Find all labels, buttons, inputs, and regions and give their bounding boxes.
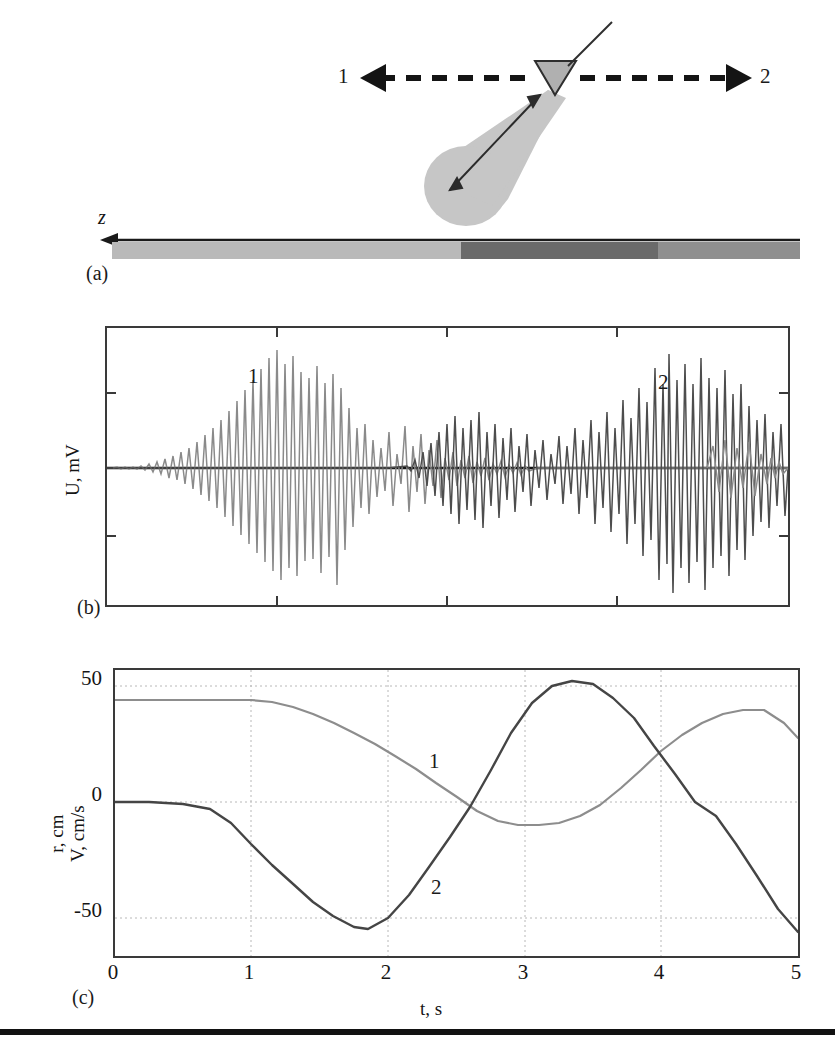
ultrasound-beam-cone [424, 90, 566, 226]
chart-label-1: 1 [429, 749, 440, 774]
panel-b-ylabel-text: U, mV [62, 444, 83, 496]
figure-root: z 1 2 (a) U, mV [0, 0, 835, 1056]
direction-label-1: 1 [338, 64, 349, 89]
panel-c-ylabel-line2: V, cm/s [67, 805, 88, 862]
panel-b-tag: (b) [77, 596, 100, 619]
transducer-cable [568, 22, 612, 66]
page-bottom-rule [0, 1029, 835, 1035]
bar-segment-light [112, 242, 461, 259]
xtick-label-1: 1 [229, 960, 269, 985]
panel-a-drawing [0, 0, 835, 300]
xtick-label-2: 2 [366, 960, 406, 985]
ultrasonic-transducer [535, 61, 576, 95]
panel-c-ylabel-line1: r, cm [46, 805, 67, 862]
z-axis-label: z [98, 206, 106, 229]
panel-c-ylabel: r, cm V, cm/s [46, 805, 89, 862]
oscillogram-frame: 1 2 [105, 326, 790, 607]
xtick-label-4: 4 [639, 960, 679, 985]
panel-c-chart: r, cm V, cm/s 50 0 -50 [0, 630, 835, 1056]
direction-arrow-right [580, 64, 752, 92]
xtick-label-3: 3 [503, 960, 543, 985]
chart-canvas [115, 670, 798, 956]
chart-series-1 [115, 700, 798, 825]
ytick-label-50: 50 [48, 666, 102, 691]
ytick-label-minus50: -50 [36, 898, 102, 923]
panel-c-xlabel: t, s [420, 998, 442, 1020]
direction-arrow-left [360, 64, 533, 92]
xtick-label-5: 5 [776, 960, 816, 985]
direction-label-2: 2 [760, 64, 771, 89]
panel-b-ylabel: U, mV [62, 444, 83, 496]
panel-c-tag: (c) [72, 986, 94, 1009]
chart-series-2 [115, 681, 798, 932]
chart-plot-frame: 1 2 [113, 668, 800, 958]
oscillogram-traces [107, 328, 788, 605]
z-axis-bar [112, 242, 800, 259]
panel-a-tag: (a) [86, 262, 108, 285]
chart-label-2: 2 [431, 875, 442, 900]
panel-a-schematic: z 1 2 (a) [0, 0, 835, 300]
xtick-label-0: 0 [93, 960, 133, 985]
bar-segment-dark [461, 242, 658, 259]
scope-label-2: 2 [658, 370, 669, 395]
bar-segment-medium [658, 242, 800, 259]
ytick-label-0: 0 [48, 782, 102, 807]
panel-b-oscillogram: U, mV [0, 300, 835, 630]
scope-label-1: 1 [248, 364, 259, 389]
